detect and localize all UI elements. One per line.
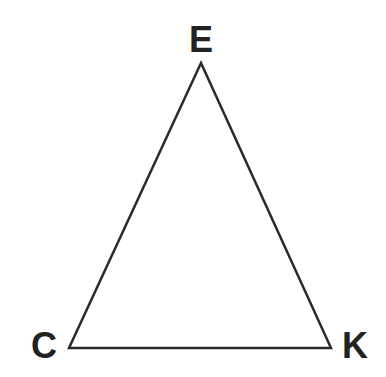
vertex-label-c: C <box>31 325 57 366</box>
vertex-label-e: E <box>189 19 213 60</box>
triangle-diagram: E C K <box>0 0 386 377</box>
vertex-label-k: K <box>342 325 368 366</box>
triangle-ECK <box>69 63 331 348</box>
